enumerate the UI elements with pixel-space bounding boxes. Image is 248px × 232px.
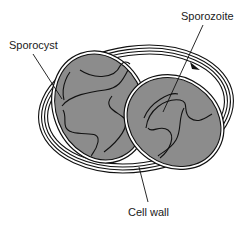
oocyst-illustration: [0, 0, 248, 232]
label-cell-wall: Cell wall: [128, 207, 169, 218]
leader-cell-wall: [139, 167, 148, 202]
label-sporocyst: Sporocyst: [9, 40, 58, 51]
label-sporozoite: Sporozoite: [181, 11, 234, 22]
oocyst-diagram: Sporocyst Sporozoite Cell wall: [0, 0, 248, 232]
